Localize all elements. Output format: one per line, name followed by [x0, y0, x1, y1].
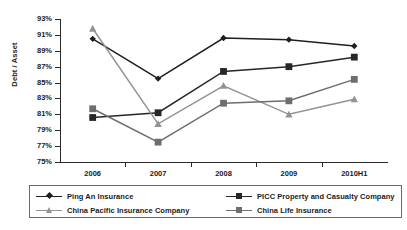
series-marker [286, 36, 292, 42]
series-marker [89, 114, 96, 121]
legend-item[interactable]: PICC Property and Casualty Company [226, 189, 395, 203]
legend-item-label: China Life Insurance [257, 206, 332, 215]
legend-item-label: PICC Property and Casualty Company [257, 192, 395, 201]
legend-item[interactable]: Ping An Insurance [36, 189, 133, 203]
legend-marker-icon [226, 204, 252, 216]
legend-item-label: China Pacific Insurance Company [67, 206, 189, 215]
series-marker [89, 25, 96, 32]
legend-item[interactable]: China Pacific Insurance Company [36, 203, 189, 217]
series-marker [220, 82, 227, 89]
chart-legend: Ping An InsurancePICC Property and Casua… [29, 185, 402, 218]
series-marker [351, 54, 358, 61]
series-marker [286, 63, 293, 70]
series-marker [220, 68, 227, 75]
legend-marker-icon [36, 190, 62, 202]
series-marker [89, 105, 96, 112]
series-marker [90, 36, 96, 42]
series-marker [351, 96, 358, 103]
series-marker [155, 139, 162, 146]
series-marker [351, 76, 358, 83]
series-marker [220, 100, 227, 107]
series-marker [351, 43, 357, 49]
legend-item-label: Ping An Insurance [67, 192, 133, 201]
series-marker [155, 109, 162, 116]
legend-marker-icon [36, 204, 62, 216]
debt-asset-line-chart: Debt / Asset 93%91%89%87%85%83%81%79%77%… [0, 0, 407, 230]
legend-marker-icon [226, 190, 252, 202]
legend-item[interactable]: China Life Insurance [226, 203, 332, 217]
series-marker [286, 97, 293, 104]
